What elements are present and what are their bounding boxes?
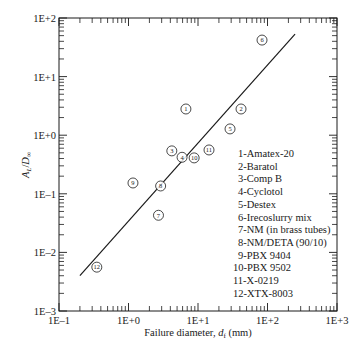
y-axis-title: AL/D∞ (20, 152, 33, 179)
legend-entry: 2-Baratol (230, 161, 330, 174)
x-tick-label: 1E+1 (187, 315, 210, 326)
legend-entry: 9-PBX 9404 (230, 250, 330, 263)
svg-text:11: 11 (206, 146, 212, 153)
x-tick-label: 1E+3 (326, 315, 349, 326)
data-point-5: 5 (225, 124, 235, 134)
legend-entry: 5-Destex (230, 199, 330, 212)
x-axis-title: Failure diameter, df (mm) (144, 327, 252, 340)
y-tick-labels: 1E+21E+11E+01E–11E–21E–3 (33, 13, 56, 317)
svg-text:3: 3 (170, 147, 173, 154)
y-tick-label: 1E+0 (33, 130, 56, 141)
data-point-1: 1 (181, 104, 191, 114)
data-point-10: 10 (189, 153, 199, 163)
legend-entry: 3-Comp B (230, 173, 330, 186)
data-point-9: 9 (128, 178, 138, 188)
legend-entry: 10-PBX 9502 (230, 262, 330, 275)
legend-entry: 12-XTX-8003 (230, 288, 330, 301)
legend-entry: 6-Irecoslurry mix (230, 212, 330, 225)
data-point-3: 3 (167, 146, 177, 156)
legend-entry: 8-NM/DETA (90/10) (230, 237, 330, 250)
x-tick-labels: 1E–11E+01E+11E+21E+3 (48, 315, 349, 326)
svg-text:1: 1 (184, 105, 187, 112)
legend-entry: 7-NM (in brass tubes) (230, 224, 330, 237)
y-tick-label: 1E–1 (34, 189, 56, 200)
svg-text:9: 9 (131, 179, 134, 186)
legend: 1-Amatex-20 2-Baratol 3-Comp B 4-Cycloto… (230, 148, 330, 300)
data-point-6: 6 (257, 35, 267, 45)
data-point-11: 11 (204, 145, 214, 155)
x-tick-label: 1E+0 (117, 315, 140, 326)
data-point-12: 12 (92, 262, 102, 272)
data-point-4: 4 (177, 152, 187, 162)
x-tick-label: 1E+2 (256, 315, 279, 326)
svg-text:12: 12 (94, 263, 101, 270)
legend-entry: 4-Cyclotol (230, 186, 330, 199)
y-tick-label: 1E+1 (33, 72, 56, 83)
data-point-2: 2 (236, 104, 246, 114)
data-point-8: 8 (156, 181, 166, 191)
legend-entry: 11-X-0219 (230, 275, 330, 288)
y-tick-label: 1E+2 (33, 13, 56, 24)
data-point-7: 7 (153, 210, 163, 220)
legend-entry: 1-Amatex-20 (230, 148, 330, 161)
svg-text:5: 5 (228, 125, 231, 132)
y-tick-label: 1E–2 (34, 247, 56, 258)
svg-text:2: 2 (239, 105, 242, 112)
svg-text:10: 10 (191, 154, 198, 161)
svg-text:8: 8 (159, 182, 162, 189)
y-tick-label: 1E–3 (34, 306, 56, 317)
